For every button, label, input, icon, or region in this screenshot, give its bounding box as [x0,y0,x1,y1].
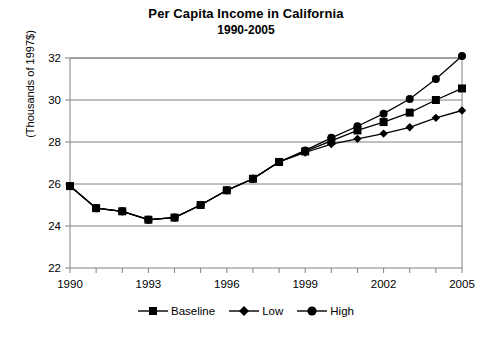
data-point-circle [406,95,414,103]
data-point-diamond [432,114,440,122]
chart-legend: Baseline Low High [0,305,492,317]
data-point-circle [380,110,388,118]
data-point-diamond [406,123,414,131]
data-point-circle [66,182,74,190]
data-point-circle [301,146,309,154]
legend-label-baseline: Baseline [171,305,215,317]
data-point-circle [171,214,179,222]
x-tick-label: 1999 [292,278,318,290]
data-point-circle [144,216,152,224]
data-point-diamond [458,106,466,114]
data-point-circle [197,201,205,209]
x-tick-label: 1996 [214,278,240,290]
legend-marker-diamond-icon [229,305,259,317]
series-baseline [66,84,466,223]
axes [70,58,462,268]
legend-marker-circle-icon [297,305,327,317]
data-point-circle [432,75,440,83]
series-line [70,56,462,220]
legend-marker-square-icon [138,305,168,317]
data-point-circle [92,204,100,212]
data-point-circle [249,175,257,183]
data-point-square [380,118,388,126]
data-point-diamond [379,129,387,137]
plot-area: 222426283032 199019931996199920022005 [0,0,492,347]
y-axis-tick-labels: 222426283032 [48,52,61,274]
y-tick-label: 26 [48,178,61,190]
data-point-circle [223,186,231,194]
data-point-square [406,109,414,117]
y-tick-label: 22 [48,262,61,274]
series-line [70,88,462,219]
data-point-square [458,84,466,92]
legend-label-low: Low [262,305,283,317]
x-tick-label: 1993 [136,278,162,290]
x-axis-tick-labels: 199019931996199920022005 [57,278,475,290]
gridlines [70,58,462,226]
y-tick-label: 30 [48,94,61,106]
data-point-circle [327,134,335,142]
x-tick-label: 2005 [449,278,475,290]
data-point-circle [118,207,126,215]
legend-item-high[interactable]: High [297,305,354,317]
data-point-square [432,96,440,104]
series-line [70,111,462,220]
legend-item-baseline[interactable]: Baseline [138,305,215,317]
x-tick-label: 1990 [57,278,83,290]
series-low [66,106,466,224]
data-point-circle [353,122,361,130]
data-point-circle [275,158,283,166]
y-tick-label: 28 [48,136,61,148]
chart-container: Per Capita Income in California 1990-200… [0,0,492,347]
x-tick-label: 2002 [371,278,397,290]
y-tick-label: 24 [48,220,61,232]
data-series-group [66,52,466,224]
data-point-circle [458,52,466,60]
x-axis-ticks [65,58,462,273]
series-high [66,52,466,224]
legend-item-low[interactable]: Low [229,305,283,317]
legend-label-high: High [330,305,354,317]
y-tick-label: 32 [48,52,61,64]
